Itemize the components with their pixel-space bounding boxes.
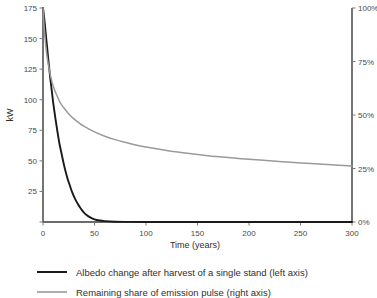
y-axis-left-tick-label: 75 — [28, 126, 37, 135]
y-axis-right-tick-label: 75% — [358, 58, 374, 67]
x-axis-tick-label: 250 — [294, 229, 308, 238]
y-axis-left-tick-label: 175 — [24, 4, 38, 13]
legend-label-1: Remaining share of emission pulse (right… — [76, 287, 271, 298]
series-line-albedo — [43, 8, 352, 222]
y-axis-right-tick-label: 0% — [358, 218, 370, 227]
y-axis-left-title: kW — [5, 108, 15, 122]
x-axis-tick-label: 50 — [90, 229, 99, 238]
y-axis-left-tick-label: 25 — [28, 187, 37, 196]
y-axis-right-tick-label: 25% — [358, 165, 374, 174]
y-axis-left-tick-label: 100 — [24, 96, 38, 105]
x-axis-tick-label: 150 — [191, 229, 205, 238]
y-axis-left-tick-label: 50 — [28, 157, 37, 166]
y-axis-left-tick-label: 125 — [24, 65, 38, 74]
legend-label-0: Albedo change after harvest of a single … — [76, 267, 308, 278]
line-chart: 2550751001251501750%25%50%75%100%0501001… — [0, 0, 377, 298]
x-axis-tick-label: 100 — [139, 229, 153, 238]
x-axis-tick-label: 0 — [41, 229, 46, 238]
y-axis-right-tick-label: 100% — [358, 4, 377, 13]
x-axis-tick-label: 300 — [345, 229, 359, 238]
series-line-emission-pulse — [43, 8, 352, 166]
x-axis-title: Time (years) — [170, 240, 220, 250]
chart-container: 2550751001251501750%25%50%75%100%0501001… — [0, 0, 377, 298]
x-axis-tick-label: 200 — [242, 229, 256, 238]
y-axis-left-tick-label: 150 — [24, 35, 38, 44]
y-axis-right-tick-label: 50% — [358, 111, 374, 120]
